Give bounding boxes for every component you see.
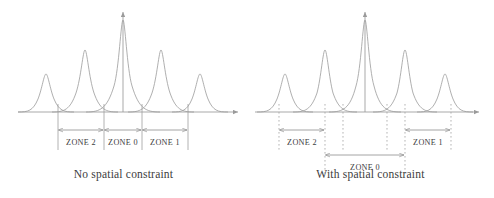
zone-label-2: ZONE 2 [66, 138, 96, 147]
panel-with-spatial-constraint: ZONE 2 ZONE 1 ZONE 0 With spatial constr… [247, 0, 494, 198]
peak-curve-2 [52, 50, 118, 112]
peak-curve-4 [128, 50, 194, 112]
peak-curve-5 [172, 74, 228, 112]
peak-curve-1 [257, 74, 313, 112]
panel-no-spatial-constraint: ZONE 2 ZONE 0 ZONE 1 No spatial constrai… [0, 0, 247, 198]
caption-right: With spatial constraint [247, 168, 494, 180]
peak-curve-2 [293, 50, 357, 112]
zone-label-2: ZONE 2 [287, 138, 317, 147]
left-diagram-svg: ZONE 2 ZONE 0 ZONE 1 [0, 0, 247, 168]
peak-curve-5 [417, 74, 473, 112]
zone-label-0: ZONE 0 [108, 138, 138, 147]
zone-label-1: ZONE 1 [150, 138, 180, 147]
peak-curve-1 [18, 74, 74, 112]
peak-curve-4 [373, 50, 437, 112]
caption-left: No spatial constraint [0, 168, 247, 180]
figure-container: ZONE 2 ZONE 0 ZONE 1 No spatial constrai… [0, 0, 494, 198]
right-diagram-svg: ZONE 2 ZONE 1 ZONE 0 [247, 0, 494, 180]
zone-label-1: ZONE 1 [413, 138, 443, 147]
